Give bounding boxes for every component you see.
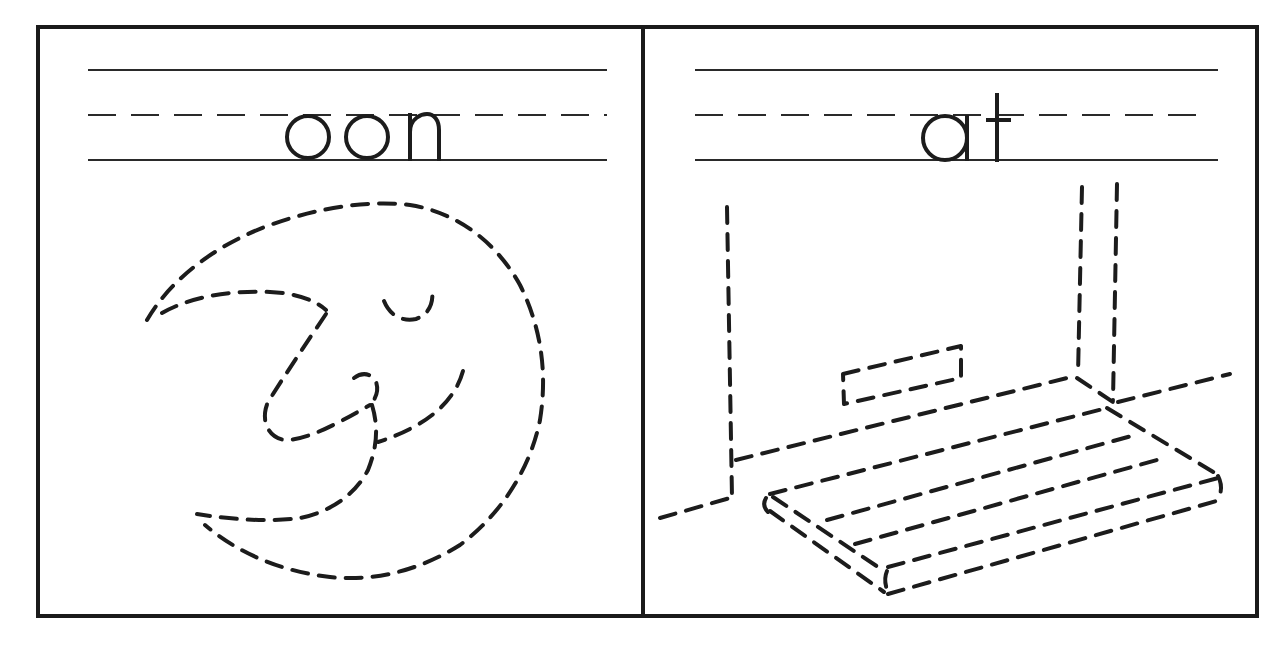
word-at [923, 93, 1011, 162]
back-wall-baseline [736, 376, 1075, 460]
mat-front-left-cap [885, 571, 888, 592]
panel-left [88, 70, 607, 578]
mat-front-bottom-edge [888, 500, 1220, 594]
left-floor-edge [660, 498, 730, 518]
moon-chin [197, 405, 376, 520]
mat-right-end-cap [1218, 476, 1221, 498]
letter-o-2 [346, 116, 388, 158]
moon-cheek [378, 371, 463, 442]
moon-outer-outline [147, 203, 543, 578]
letter-o-1 [287, 116, 329, 158]
worksheet-canvas [0, 0, 1285, 654]
mat-right-edge [1107, 408, 1215, 473]
letter-a-bowl [923, 116, 967, 160]
mat-back-edge [770, 408, 1107, 494]
left-wall-edge [727, 207, 732, 497]
corner-edge-left [1078, 187, 1082, 375]
corner-edge-right [1113, 184, 1117, 400]
moon-face-drawing [147, 203, 543, 578]
worksheet: oon at [0, 0, 1285, 654]
word-oon [287, 113, 439, 161]
moon-closed-eye [384, 290, 432, 320]
moon-upper-lip [162, 292, 326, 313]
wall-plaque [843, 346, 961, 404]
mat-left-end-cap [764, 498, 768, 512]
right-floor-edge [1118, 374, 1230, 402]
letter-n [410, 113, 439, 161]
room-mat-drawing [660, 184, 1230, 594]
mat-left-bottom-edge [770, 511, 884, 592]
corner-floor-diagonal [1077, 378, 1113, 402]
moon-nostril [354, 374, 377, 404]
panel-right [660, 70, 1230, 594]
handwriting-lines-right [695, 70, 1218, 160]
